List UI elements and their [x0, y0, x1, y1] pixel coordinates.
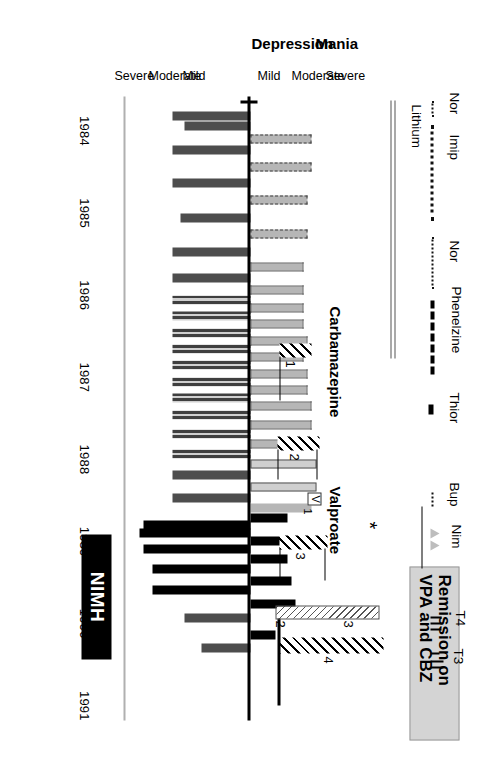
depression-episode-bar [172, 311, 250, 320]
depression-episode-bar [172, 178, 250, 187]
carbamazepine-trial-bar-1 [279, 343, 311, 357]
axis-origin-tick [240, 100, 257, 103]
mania-episode-bar [250, 576, 291, 585]
drug-label-nor-2: Nor [446, 240, 461, 262]
drug-line-nor-1 [431, 100, 433, 116]
mania-episode-bar [250, 303, 303, 312]
carbamazepine-trial-number-2: 2 [286, 453, 301, 460]
t3-tick-1 [430, 652, 439, 654]
carbamazepine-leader-2a [277, 449, 278, 479]
depression-episode-bar [172, 377, 250, 386]
carbamazepine-leader-3b [324, 548, 325, 580]
drug-line-thior [428, 404, 433, 414]
year-label-1987: 1987 [76, 362, 91, 392]
drug-label-lithium: Lithium [408, 104, 423, 148]
depression-episode-bar [172, 111, 250, 120]
depression-episode-bar [172, 449, 250, 458]
depression-episode-bar [172, 295, 250, 304]
depression-episode-bar [180, 213, 250, 222]
carbamazepine-leader-2b [316, 449, 317, 479]
valproate-legend-letter: V [309, 495, 321, 502]
carbamazepine-trial-number-4: 4 [320, 656, 335, 663]
t4-tick-1 [430, 616, 441, 618]
year-label-1986: 1986 [76, 280, 91, 310]
depression-level-severe: Severe [114, 68, 154, 82]
mania-level-moderate: Moderate [291, 68, 344, 82]
drug-line-bup [431, 492, 433, 506]
depression-episode-bar [201, 643, 250, 652]
year-label-1985: 1985 [76, 198, 91, 228]
depression-episode-bar [184, 613, 250, 622]
severity-scale-line [124, 96, 126, 720]
drug-label-t4: T4 [452, 610, 467, 626]
time-axis [247, 96, 250, 720]
drug-line-nor-2 [431, 236, 433, 288]
mania-episode-bar [250, 162, 312, 171]
valproate-trial-number-2: 2 [272, 620, 287, 627]
mania-episode-bar [250, 630, 275, 639]
valproate-trial-number-3: 3 [340, 620, 355, 627]
t3-tick-2 [430, 660, 443, 662]
nimh-admission-block: NIMH [81, 534, 111, 659]
depression-episode-bar [184, 121, 250, 130]
depression-episode-bar [172, 328, 250, 337]
year-label-1984: 1984 [76, 116, 91, 146]
mania-episode-bar [250, 285, 303, 294]
mania-episode-bar [250, 459, 316, 468]
mania-episode-bar [250, 229, 307, 238]
year-label-1988: 1988 [76, 444, 91, 474]
carbamazepine-leader-1 [279, 356, 280, 400]
mania-episode-bar [250, 134, 312, 143]
valproate-label: Valproate [326, 486, 343, 554]
depression-episode-bar [143, 544, 250, 553]
depression-episode-bar [172, 410, 250, 419]
depression-episode-bar [143, 520, 250, 529]
mania-episode-bar [250, 482, 316, 491]
drug-label-imip: Imip [446, 134, 461, 160]
t4-tick-2 [430, 622, 441, 624]
drug-line-lithium [390, 100, 395, 358]
carbamazepine-trial-bar-2 [277, 436, 319, 450]
life-chart-figure: 19841985198619871988198919901991 SevereM… [0, 0, 483, 784]
depression-episode-bar [172, 470, 250, 479]
drug-line-imip [430, 124, 433, 220]
mania-episode-bar [250, 513, 287, 522]
depression-axis-label: Depression [251, 34, 333, 51]
depression-episode-bar [172, 344, 250, 353]
depression-level-moderate: Moderate [148, 68, 201, 82]
drug-line-phenelzine [430, 300, 434, 374]
depression-episode-bar [139, 528, 250, 537]
depression-episode-bar [172, 273, 250, 282]
carbamazepine-label: Carbamazepine [326, 306, 343, 417]
depression-episode-bar [172, 360, 250, 369]
depression-episode-bar [172, 493, 250, 502]
carbamazepine-trial-number-3: 3 [292, 552, 307, 559]
drug-label-phenelzine: Phenelzine [448, 286, 463, 353]
valproate-trial-bar-2 [275, 605, 379, 619]
depression-episode-bar [152, 564, 250, 573]
mania-episode-bar [250, 401, 312, 410]
nim-marker-triangle-1 [430, 528, 439, 538]
mania-level-mild: Mild [257, 68, 280, 82]
drug-label-thior: Thior [446, 392, 461, 423]
mania-episode-bar [250, 536, 283, 545]
mania-episode-bar [250, 262, 303, 271]
t4-tick-3 [430, 628, 441, 630]
depression-episode-bar [152, 585, 250, 594]
t3-tick-3 [430, 666, 443, 668]
nim-marker-triangle-2 [430, 540, 439, 550]
carbamazepine-leader-3a [279, 548, 280, 580]
depression-episode-bar [172, 429, 250, 438]
carbamazepine-trial-bar-3 [279, 535, 327, 549]
depression-episode-bar [172, 145, 250, 154]
drug-label-nim: Nim [448, 524, 463, 548]
carbamazepine-trial-bar-4 [279, 637, 383, 653]
remission-leader-line [421, 506, 422, 568]
mania-episode-bar [250, 195, 307, 204]
year-label-1991: 1991 [76, 690, 91, 720]
valproate-legend-subscript: 1 [301, 508, 313, 514]
drug-label-bup: Bup [446, 482, 461, 506]
depression-episode-bar [172, 247, 250, 256]
mania-episode-bar [250, 554, 287, 563]
mania-episode-bar [250, 420, 312, 429]
